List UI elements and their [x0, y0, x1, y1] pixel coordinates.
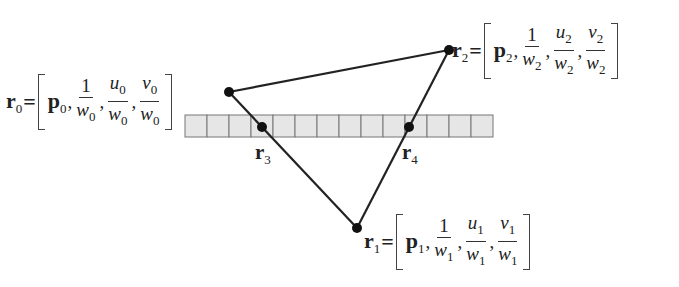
- attribute-vector-r2: p2 , 1w2 , u2w2 , v2w2: [484, 23, 619, 79]
- scanline-cell: [317, 115, 339, 137]
- edge-r0-r2: [229, 50, 449, 92]
- vertex-r1-attributes: r1 = p1 , 1w1 , u1w1 , v1w1: [364, 214, 530, 270]
- frac-u2-over-w2: u2w2: [552, 21, 575, 82]
- scanline-cell: [207, 115, 229, 137]
- vertex-r2-name: r2: [452, 37, 468, 66]
- attribute-vector-r1: p1 , 1w1 , u1w1 , v1w1: [396, 214, 531, 270]
- scanline-cell: [339, 115, 361, 137]
- point-r0: [224, 87, 234, 97]
- frac-v0-over-w0: v0w0: [138, 72, 161, 133]
- vertex-points: [224, 45, 454, 233]
- edge-r1-r0: [229, 92, 357, 228]
- scanline-cell: [185, 115, 207, 137]
- intersection-r4-label: r4: [402, 140, 418, 168]
- point-r1: [352, 223, 362, 233]
- scanline-cell-strip: [185, 115, 493, 137]
- scanline-cell: [471, 115, 493, 137]
- vertex-r0-name: r0: [6, 88, 22, 117]
- equals-sign: =: [469, 38, 482, 64]
- position-p2: p2: [494, 37, 513, 66]
- position-p1: p1: [406, 228, 425, 257]
- frac-one-over-w1: 1w1: [432, 215, 455, 269]
- edge-r2-r1: [357, 50, 449, 228]
- scanline-cell: [383, 115, 405, 137]
- frac-v2-over-w2: v2w2: [584, 21, 607, 82]
- position-p0: p0: [48, 88, 67, 117]
- scanline-cell: [427, 115, 449, 137]
- scanline-cell: [273, 115, 295, 137]
- point-r4: [404, 122, 414, 132]
- point-r3: [257, 122, 267, 132]
- triangle-edges: [229, 50, 449, 228]
- scanline-cell: [449, 115, 471, 137]
- equals-sign: =: [381, 229, 394, 255]
- vertex-r0-attributes: r0 = p0 , 1w0 , u0w0 , v0w0: [6, 74, 172, 130]
- frac-v1-over-w1: v1w1: [496, 212, 519, 273]
- intersection-r3-label: r3: [255, 140, 271, 168]
- attribute-vector-r0: p0 , 1w0 , u0w0 , v0w0: [38, 74, 173, 130]
- scanline-cell: [295, 115, 317, 137]
- scanline-cell: [361, 115, 383, 137]
- frac-u0-over-w0: u0w0: [106, 72, 129, 133]
- scanline-cell: [229, 115, 251, 137]
- vertex-r1-name: r1: [364, 228, 380, 257]
- vertex-r2-attributes: r2 = p2 , 1w2 , u2w2 , v2w2: [452, 23, 618, 79]
- frac-one-over-w0: 1w0: [74, 75, 97, 129]
- frac-u1-over-w1: u1w1: [464, 212, 487, 273]
- frac-one-over-w2: 1w2: [520, 24, 543, 78]
- equals-sign: =: [23, 89, 36, 115]
